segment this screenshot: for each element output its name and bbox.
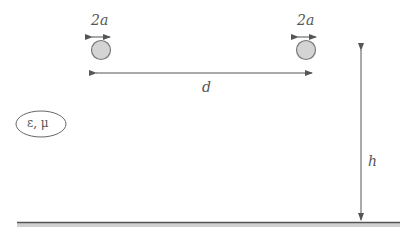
left-conductor-circle (92, 41, 111, 60)
diagram-svg (0, 0, 417, 234)
height-label: h (368, 154, 377, 168)
medium-label: ε, μ (27, 117, 49, 129)
right-conductor (297, 37, 317, 60)
right-conductor-circle (297, 41, 316, 60)
left-conductor (92, 37, 111, 60)
ground-shadow (17, 223, 400, 227)
diagram-canvas: 2a 2a d h ε, μ (0, 0, 417, 234)
ground-plane (17, 223, 400, 228)
right-diameter-label: 2a (297, 13, 314, 27)
separation-label: d (202, 80, 211, 94)
left-diameter-label: 2a (91, 13, 108, 27)
